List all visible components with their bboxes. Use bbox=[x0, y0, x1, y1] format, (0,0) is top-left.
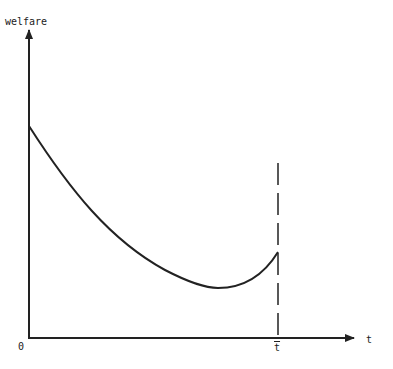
t-bar-tick-label: t bbox=[274, 343, 280, 353]
welfare-chart bbox=[0, 0, 393, 369]
origin-label: 0 bbox=[18, 342, 24, 352]
welfare-curve bbox=[29, 126, 278, 288]
y-axis-label: welfare bbox=[5, 17, 47, 27]
x-axis-label: t bbox=[366, 335, 372, 345]
